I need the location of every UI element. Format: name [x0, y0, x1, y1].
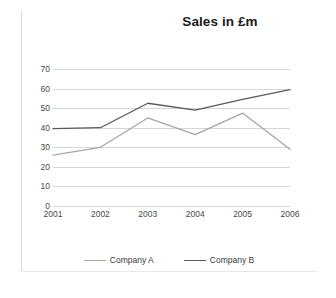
plot-area — [53, 69, 290, 206]
x-tick-label: 2004 — [173, 210, 217, 219]
legend-item-company-a[interactable]: Company A — [84, 256, 154, 265]
chart-title: Sales in £m — [120, 14, 320, 29]
x-tick-label: 2006 — [268, 210, 312, 219]
legend-line-icon — [184, 260, 206, 261]
y-axis-tick-labels: 706050403020100 — [24, 69, 50, 206]
x-tick-label: 2001 — [31, 210, 75, 219]
series-line-company-a — [53, 113, 290, 155]
y-tick-label: 70 — [24, 65, 50, 74]
x-tick-label: 2005 — [221, 210, 265, 219]
y-tick-label: 20 — [24, 163, 50, 172]
chart-legend: Company ACompany B — [21, 252, 317, 268]
y-tick-label: 10 — [24, 182, 50, 191]
x-tick-label: 2003 — [126, 210, 170, 219]
legend-item-company-b[interactable]: Company B — [184, 256, 254, 265]
legend-line-icon — [84, 260, 106, 261]
x-tick-label: 2002 — [78, 210, 122, 219]
chart-container: Sales in £m 706050403020100 200120022003… — [0, 0, 336, 298]
y-tick-label: 40 — [24, 123, 50, 132]
legend-label: Company A — [110, 256, 154, 265]
series-lines — [53, 69, 290, 206]
gridline-0 — [53, 206, 290, 207]
legend-label: Company B — [210, 256, 254, 265]
y-tick-label: 60 — [24, 84, 50, 93]
chart-frame-left-border — [21, 10, 22, 272]
x-axis-tick-labels: 200120022003200420052006 — [53, 210, 290, 224]
y-tick-label: 30 — [24, 143, 50, 152]
y-tick-label: 50 — [24, 104, 50, 113]
chart-frame-bottom-border — [21, 271, 317, 272]
